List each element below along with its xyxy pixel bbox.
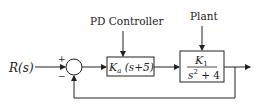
plant-title: Plant [190,10,218,22]
input-label: R(s) [8,61,34,75]
block-diagram: R(s) + − PD Controller Ka (s+5) Plant K1… [0,0,261,110]
controller-tf: Ka (s+5) [108,61,154,75]
minus-sign: − [58,71,66,81]
plant-denominator: s2 + 4 [188,68,220,81]
plus-sign: + [58,54,66,64]
controller-title: PD Controller [90,15,164,27]
summing-junction [66,59,82,75]
